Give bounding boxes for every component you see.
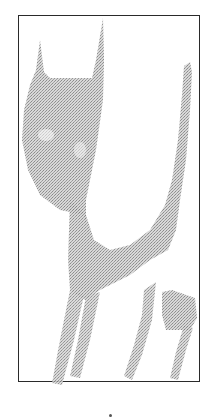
cat-face-highlight — [74, 142, 86, 158]
cat-illustration — [0, 0, 218, 418]
page-mark — [109, 414, 112, 417]
cat-haunch — [162, 290, 197, 330]
cat-face-highlight — [38, 129, 54, 141]
cat-hind-leg-right — [170, 325, 193, 380]
cat-head-and-neck — [22, 18, 104, 225]
cat-hind-leg-left — [124, 282, 156, 380]
